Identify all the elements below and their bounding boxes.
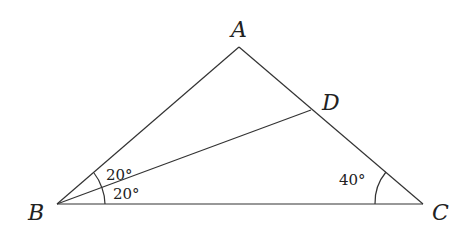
segment-ac bbox=[239, 47, 423, 204]
triangle-diagram: A B C D 20° 20° 40° bbox=[0, 0, 465, 233]
angle-arc-c bbox=[375, 172, 386, 204]
angle-label-dbc: 20° bbox=[113, 185, 140, 203]
angle-label-abd: 20° bbox=[106, 166, 133, 184]
label-d: D bbox=[321, 90, 340, 115]
angle-arc-dbc bbox=[102, 188, 105, 204]
segment-bd bbox=[57, 110, 311, 204]
label-b: B bbox=[27, 200, 44, 225]
angle-arc-abd bbox=[94, 173, 102, 188]
segment-ab bbox=[57, 47, 239, 204]
label-c: C bbox=[432, 200, 449, 225]
angle-label-bca: 40° bbox=[339, 171, 366, 189]
label-a: A bbox=[229, 17, 247, 42]
